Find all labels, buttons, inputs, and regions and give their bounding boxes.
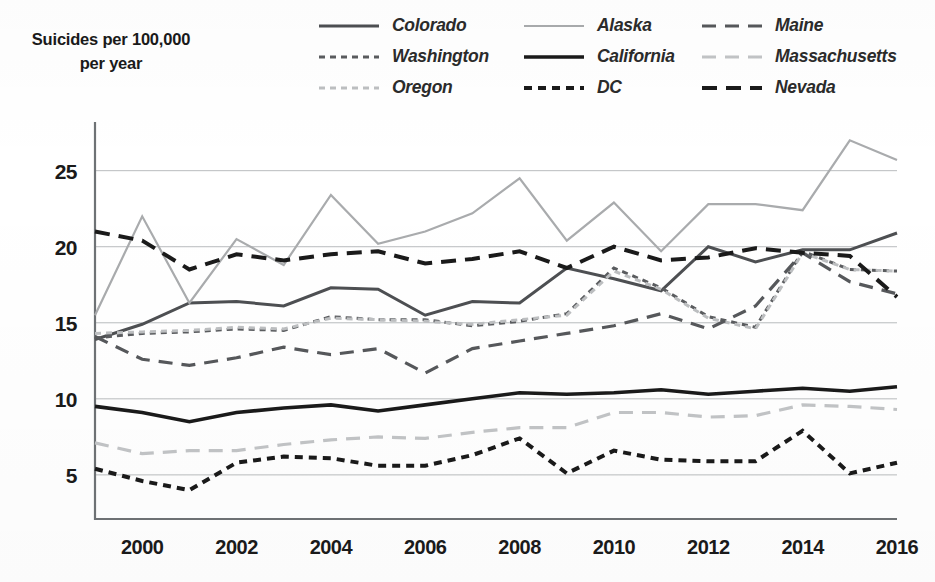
series-line-nevada <box>95 232 897 297</box>
series-lines <box>95 140 897 490</box>
x-tick-label-2010: 2010 <box>593 536 636 558</box>
series-line-maine <box>95 253 897 373</box>
series-line-oregon <box>95 253 897 334</box>
x-axis-tick-labels: 200020022004200620082010201220142016 <box>121 536 919 558</box>
x-tick-label-2002: 2002 <box>215 536 258 558</box>
x-tick-label-2012: 2012 <box>687 536 730 558</box>
plot-svg: 510152025 200020022004200620082010201220… <box>0 0 935 582</box>
y-axis-tick-labels: 510152025 <box>55 160 78 487</box>
x-tick-label-2006: 2006 <box>404 536 447 558</box>
series-line-alaska <box>95 140 897 315</box>
plot-area: 510152025 200020022004200620082010201220… <box>0 0 935 582</box>
x-tick-label-2004: 2004 <box>310 536 354 558</box>
chart-figure: Suicides per 100,000 per year ColoradoAl… <box>0 0 935 582</box>
x-tick-label-2008: 2008 <box>498 536 541 558</box>
y-tick-label-20: 20 <box>55 236 77 259</box>
y-tick-label-25: 25 <box>55 160 78 183</box>
series-line-washington <box>95 251 897 338</box>
axis-lines <box>95 122 897 519</box>
series-line-dc <box>95 431 897 490</box>
x-tick-label-2014: 2014 <box>781 536 825 558</box>
x-tick-label-2016: 2016 <box>876 536 919 558</box>
y-tick-label-5: 5 <box>66 464 78 487</box>
series-line-california <box>95 387 897 422</box>
x-tick-label-2000: 2000 <box>121 536 164 558</box>
y-tick-label-10: 10 <box>55 388 77 411</box>
y-tick-label-15: 15 <box>55 312 78 335</box>
axis-spine <box>95 122 897 519</box>
